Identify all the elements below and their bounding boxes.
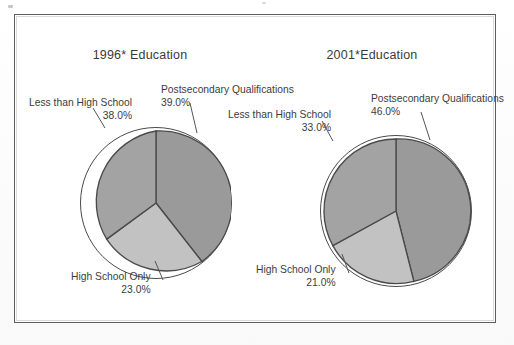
scan-speck <box>262 2 266 4</box>
figure-frame: 1996* Education 2001*Education <box>14 14 496 323</box>
label-1996-less-than-high-school: Less than High School 38.0% <box>29 97 132 122</box>
label-1996-hs-text: High School Only <box>71 271 151 282</box>
label-2001-less-than-high-school: Less than High School 33.0% <box>228 109 331 134</box>
label-2001-post-text: Postsecondary Qualifications <box>371 93 504 104</box>
label-1996-less-text: Less than High School <box>29 97 132 108</box>
label-2001-hs-text: High School Only <box>256 264 336 275</box>
label-1996-high-school-only: High School Only 23.0% <box>71 271 151 296</box>
label-1996-post-pct: 39.0% <box>161 97 294 110</box>
figure-root: 1996* Education 2001*Education <box>0 0 514 345</box>
label-2001-less-pct: 33.0% <box>228 122 331 135</box>
label-2001-hs-pct: 21.0% <box>256 277 336 290</box>
label-1996-hs-pct: 23.0% <box>71 284 151 297</box>
leader-2001-hs <box>342 254 349 273</box>
label-2001-postsecondary: Postsecondary Qualifications 46.0% <box>371 93 504 118</box>
leader-1996-hs <box>155 261 163 280</box>
label-2001-post-pct: 46.0% <box>371 106 504 119</box>
scan-speck <box>8 5 13 8</box>
label-1996-less-pct: 38.0% <box>29 110 132 123</box>
label-1996-postsecondary: Postsecondary Qualifications 39.0% <box>161 84 294 109</box>
label-2001-less-text: Less than High School <box>228 109 331 120</box>
label-1996-post-text: Postsecondary Qualifications <box>161 84 294 95</box>
label-2001-high-school-only: High School Only 21.0% <box>256 264 336 289</box>
